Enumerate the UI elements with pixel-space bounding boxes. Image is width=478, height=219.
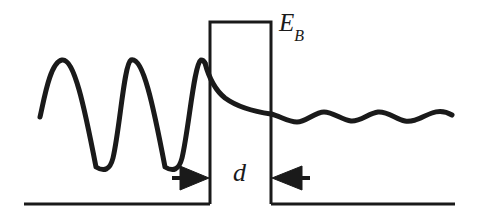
width-arrow-right-head <box>272 166 302 190</box>
quantum-tunneling-diagram: EB d <box>0 0 478 219</box>
barrier-energy-label: EB <box>279 10 304 40</box>
transmitted-wavefunction <box>271 112 452 122</box>
barrier-energy-subscript: B <box>294 27 304 44</box>
incident-wavefunction <box>40 60 205 170</box>
evanescent-decay-wavefunction <box>205 63 271 114</box>
barrier-width-label: d <box>233 160 246 186</box>
width-arrow-left-head <box>180 166 209 190</box>
width-arrow-right <box>272 166 310 190</box>
barrier-energy-symbol: E <box>279 9 294 36</box>
